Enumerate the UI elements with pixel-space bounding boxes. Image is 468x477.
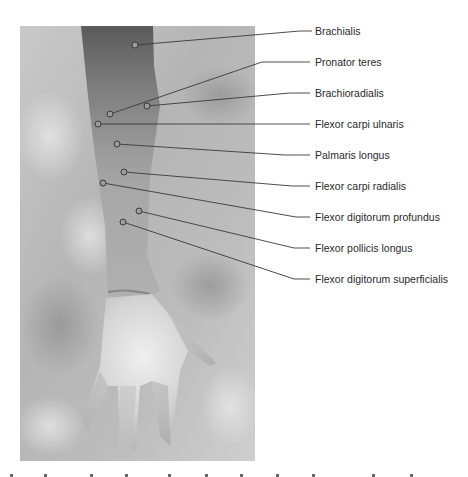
forearm-photo [20,26,255,461]
label-brachioradialis: Brachioradialis [315,87,384,99]
label-flexor-carpi-radialis: Flexor carpi radialis [315,180,406,192]
label-palmaris-longus: Palmaris longus [315,149,390,161]
label-flexor-digitorum-superficialis: Flexor digitorum superficialis [315,273,448,285]
label-flexor-carpi-ulnaris: Flexor carpi ulnaris [315,118,404,130]
label-brachialis: Brachialis [315,25,361,37]
clipped-caption [0,472,468,477]
label-pronator-teres: Pronator teres [315,56,382,68]
label-flexor-digitorum-profundus: Flexor digitorum profundus [315,211,440,223]
label-flexor-pollicis-longus: Flexor pollicis longus [315,242,412,254]
